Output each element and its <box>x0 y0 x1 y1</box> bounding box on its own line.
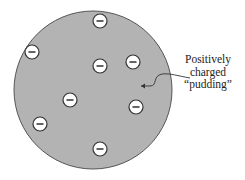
label-line-2: charged <box>176 66 240 79</box>
electron <box>126 55 140 69</box>
label-line-3: “pudding” <box>176 78 240 91</box>
electron <box>129 100 143 114</box>
electron <box>93 142 107 156</box>
electron <box>33 117 47 131</box>
electron <box>93 14 107 28</box>
electron <box>63 93 77 107</box>
electron <box>25 45 39 59</box>
pudding-label: Positively charged “pudding” <box>176 53 240 91</box>
label-line-1: Positively <box>176 53 240 66</box>
electron <box>93 59 107 73</box>
positive-sphere <box>14 11 172 169</box>
